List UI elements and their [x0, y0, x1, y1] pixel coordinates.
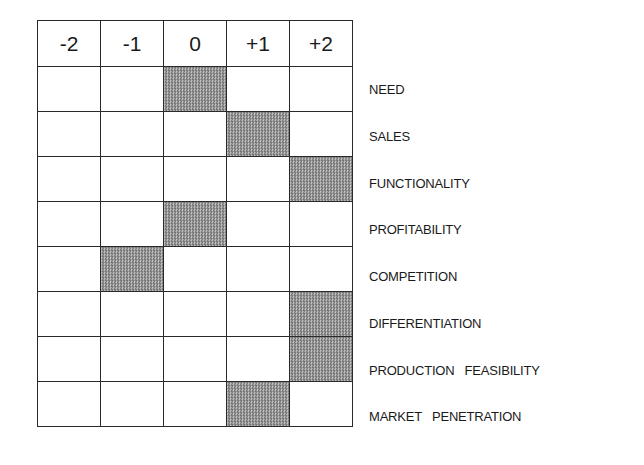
- rating-cell-selected: [164, 67, 227, 112]
- rating-cell: [164, 157, 227, 202]
- rating-cell: [227, 202, 290, 247]
- rating-cell: [101, 202, 164, 247]
- criterion-label: MARKET PENETRATION: [369, 393, 521, 440]
- rating-cell: [227, 247, 290, 292]
- criterion-row: [38, 202, 353, 247]
- criterion-label: NEED: [369, 66, 404, 113]
- scale-header-cell: 0: [164, 21, 227, 67]
- rating-cell: [38, 292, 101, 337]
- rating-cell: [101, 157, 164, 202]
- rating-cell: [290, 247, 353, 292]
- criterion-row: [38, 292, 353, 337]
- rating-cell: [164, 337, 227, 382]
- criterion-label: SALES: [369, 113, 410, 160]
- rating-cell: [38, 67, 101, 112]
- rating-cell: [38, 337, 101, 382]
- rating-cell: [227, 67, 290, 112]
- rating-cell-selected: [101, 247, 164, 292]
- rating-cell: [290, 67, 353, 112]
- criterion-label: FUNCTIONALITY: [369, 160, 470, 207]
- criterion-label: DIFFERENTIATION: [369, 300, 481, 347]
- rating-cell: [38, 112, 101, 157]
- rating-cell: [290, 112, 353, 157]
- rating-cell: [164, 247, 227, 292]
- criterion-row: [38, 247, 353, 292]
- rating-cell-selected: [164, 202, 227, 247]
- rating-cell: [38, 247, 101, 292]
- criterion-row: [38, 67, 353, 112]
- criterion-label: PRODUCTION FEASIBILITY: [369, 347, 540, 394]
- rating-cell: [101, 67, 164, 112]
- rating-cell: [101, 292, 164, 337]
- rating-cell: [227, 157, 290, 202]
- rating-cell: [227, 292, 290, 337]
- rating-cell: [38, 202, 101, 247]
- rating-cell-selected: [290, 292, 353, 337]
- scale-header-cell: +2: [290, 21, 353, 67]
- criterion-label: PROFITABILITY: [369, 206, 462, 253]
- criterion-row: [38, 112, 353, 157]
- rating-cell: [164, 112, 227, 157]
- rating-cell-selected: [227, 382, 290, 427]
- scale-header-cell: +1: [227, 21, 290, 67]
- criterion-row: [38, 157, 353, 202]
- scale-header-cell: -2: [38, 21, 101, 67]
- rating-cell: [101, 382, 164, 427]
- rating-cell-selected: [290, 157, 353, 202]
- rating-grid: -2-10+1+2: [37, 20, 353, 427]
- rating-cell-selected: [227, 112, 290, 157]
- criterion-row: [38, 382, 353, 427]
- rating-cell: [290, 202, 353, 247]
- scale-header-row: -2-10+1+2: [38, 21, 353, 67]
- rating-cell: [290, 382, 353, 427]
- criterion-label: COMPETITION: [369, 253, 457, 300]
- rating-cell: [164, 292, 227, 337]
- rating-cell: [101, 337, 164, 382]
- rating-cell: [227, 337, 290, 382]
- rating-cell: [38, 382, 101, 427]
- criterion-row: [38, 337, 353, 382]
- rating-cell: [101, 112, 164, 157]
- rating-cell: [38, 157, 101, 202]
- rating-cell: [164, 382, 227, 427]
- rating-grid-body: [38, 67, 353, 427]
- rating-cell-selected: [290, 337, 353, 382]
- scale-header-cell: -1: [101, 21, 164, 67]
